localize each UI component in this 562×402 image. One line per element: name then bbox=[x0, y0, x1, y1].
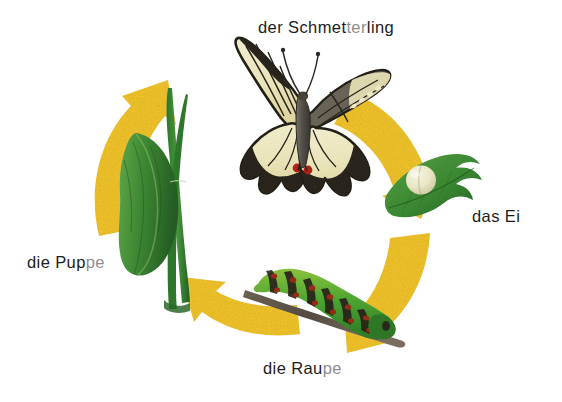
label-butterfly-tail: ling bbox=[367, 18, 394, 36]
label-pupa-dim: pe bbox=[86, 253, 105, 271]
label-larva-dim: pe bbox=[323, 359, 342, 377]
antenna-club-left bbox=[281, 48, 285, 52]
label-larva-lead: die Rau bbox=[263, 359, 323, 377]
label-pupa: die Puppe bbox=[27, 254, 105, 271]
egg bbox=[406, 166, 436, 195]
antenna-club-right bbox=[316, 52, 320, 56]
label-butterfly: der Schmetterling bbox=[258, 19, 394, 36]
label-butterfly-dim: ter bbox=[346, 18, 366, 36]
egg-highlight bbox=[410, 170, 420, 178]
life-cycle-figure: der Schmetterling das Ei die Puppe die R… bbox=[0, 0, 562, 402]
label-butterfly-lead: der Schmet bbox=[258, 18, 346, 36]
label-larva: die Raupe bbox=[263, 360, 342, 377]
illustration-canvas bbox=[0, 0, 562, 402]
label-egg-lead: das Ei bbox=[472, 207, 520, 225]
caterpillar-head-marking bbox=[382, 321, 390, 331]
label-pupa-lead: die Pup bbox=[27, 253, 86, 271]
label-egg: das Ei bbox=[472, 208, 520, 225]
